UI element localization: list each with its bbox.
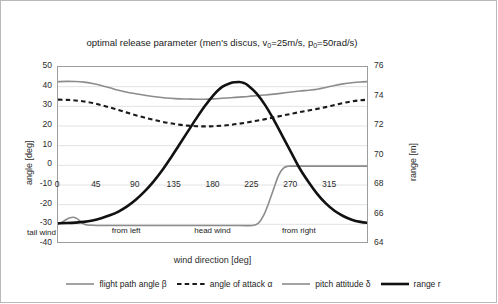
legend-swatch-1 <box>176 280 206 288</box>
plot-area <box>57 66 368 243</box>
y-tick-left-50: 50 <box>26 60 52 70</box>
plot-canvas <box>58 67 368 243</box>
x-tick-270: 270 <box>275 179 305 189</box>
y-tick-left-40: 40 <box>26 80 52 90</box>
y-axis-right-title: range [m] <box>408 142 418 180</box>
y-tick-left--40: -40 <box>26 237 52 247</box>
annotation-tail-wind: tail wind <box>15 228 67 237</box>
y-tick-right-66: 66 <box>374 208 400 218</box>
legend-item-3[interactable]: range r <box>380 279 441 289</box>
legend-label-3: range r <box>414 279 441 289</box>
y-tick-left--20: -20 <box>26 198 52 208</box>
legend-swatch-0 <box>65 280 95 288</box>
legend-label-2: pitch attitude δ <box>315 279 370 289</box>
chart-title-sub-v0: 0 <box>267 42 271 49</box>
chart-title: optimal release parameter (men's discus,… <box>57 37 387 48</box>
x-tick-180: 180 <box>198 179 228 189</box>
chart-screenshot: optimal release parameter (men's discus,… <box>0 0 498 304</box>
y-axis-left-title: angle [deg] <box>24 140 34 185</box>
legend-label-0: flight path angle β <box>99 279 166 289</box>
x-tick-45: 45 <box>81 179 111 189</box>
y-tick-left-30: 30 <box>26 99 52 109</box>
chart-title-main: optimal release parameter (men's discus,… <box>86 37 267 48</box>
y-tick-right-72: 72 <box>374 119 400 129</box>
x-tick-90: 90 <box>120 179 150 189</box>
legend-item-0[interactable]: flight path angle β <box>65 279 166 289</box>
x-axis-title: wind direction [deg] <box>168 255 258 265</box>
y-tick-left--30: -30 <box>26 217 52 227</box>
chart-title-end: =50rad/s) <box>317 37 357 48</box>
y-tick-right-74: 74 <box>374 90 400 100</box>
chart-title-mid: =25m/s, p <box>271 37 313 48</box>
legend-swatch-3 <box>380 280 410 288</box>
series-line-3 <box>58 82 368 223</box>
y-tick-right-70: 70 <box>374 149 400 159</box>
chart-title-sub-p0: 0 <box>313 42 317 49</box>
x-tick-0: 0 <box>42 179 72 189</box>
legend-label-1: angle of attack α <box>210 279 273 289</box>
series-line-1 <box>58 100 368 127</box>
annotation-head-wind: head wind <box>187 226 239 235</box>
legend-item-1[interactable]: angle of attack α <box>176 279 273 289</box>
annotation-from-right: from right <box>273 226 325 235</box>
x-tick-225: 225 <box>236 179 266 189</box>
y-tick-left-20: 20 <box>26 119 52 129</box>
annotation-from-left: from left <box>100 226 152 235</box>
x-tick-135: 135 <box>159 179 189 189</box>
chart-legend: flight path angle βangle of attack αpitc… <box>38 276 468 292</box>
legend-item-2[interactable]: pitch attitude δ <box>281 279 370 289</box>
y-tick-right-76: 76 <box>374 60 400 70</box>
legend-swatch-2 <box>281 280 311 288</box>
x-tick-315: 315 <box>314 179 344 189</box>
y-tick-right-68: 68 <box>374 178 400 188</box>
y-tick-right-64: 64 <box>374 237 400 247</box>
